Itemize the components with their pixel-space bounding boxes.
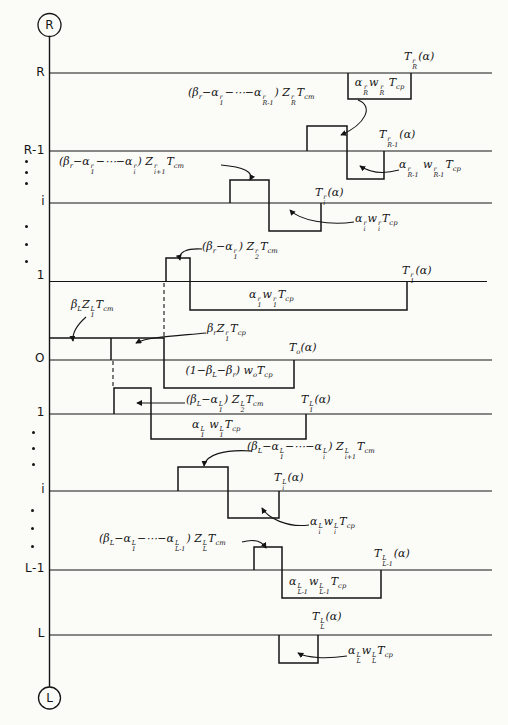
axis-row-label-i-right: i xyxy=(12,194,45,208)
label-comm-i-left: (βL−αL1−⋯−αLi) ZLi+1Tcm xyxy=(247,441,375,460)
arrow-wi-to-pulse xyxy=(290,210,354,223)
plateau-origin xyxy=(49,338,294,388)
label-compute-i-right: αriwriTcp xyxy=(355,213,398,232)
axis-row-label-L: L xyxy=(12,626,45,640)
timing-diagram-figure: R L R R-1 i 1 O 1 i L-1 L TrR(α) αrRwrR … xyxy=(0,0,508,725)
label-finish-time-origin: To(α) xyxy=(289,342,316,357)
arrow-zR-to-pulse xyxy=(341,100,366,135)
label-finish-time-i-right: Tri(α) xyxy=(315,187,343,206)
dashed-guides xyxy=(113,283,164,387)
diagram-canvas xyxy=(0,0,508,725)
arrow-wiL-to-pulse xyxy=(262,508,309,526)
pulse-row-i-right xyxy=(230,180,321,231)
arrow-wLL-to-pulse xyxy=(298,653,347,658)
label-compute-R-1: αrR-1 wrR-1Tcp xyxy=(399,159,461,178)
axis-row-label-R-1: R-1 xyxy=(12,143,45,157)
label-comm-beta-r: βrZr1Tcp xyxy=(207,323,246,342)
axis-row-label-1-left: 1 xyxy=(12,405,45,419)
label-compute-L-1: αLL-1wLL-1Tcp xyxy=(289,576,346,595)
arrow-zi1-to-pulse xyxy=(221,165,251,180)
axis-row-label-origin: O xyxy=(12,351,45,365)
pulse-compute-L xyxy=(279,635,318,663)
label-finish-time-R: TrR(α) xyxy=(404,51,434,70)
arrow-ziL-to-pulse xyxy=(204,451,252,466)
label-compute-origin: (1−βL−βr) woTcp xyxy=(164,365,294,380)
label-finish-time-1-right: Tr1(α) xyxy=(402,265,431,284)
label-finish-time-L-1: TLL-1(α) xyxy=(374,548,410,567)
label-compute-L: αLLwLLTcp xyxy=(348,645,393,664)
label-comm-R: (βr−αr1−⋯−αrR-1) ZrRTcm xyxy=(188,87,314,106)
label-comm-2-left: (βL−αL1) ZL2Tcm xyxy=(186,394,263,413)
axis-row-label-L-1: L-1 xyxy=(12,561,45,575)
label-finish-time-i-left: TLi(α) xyxy=(274,472,304,491)
terminal-top-label: R xyxy=(38,18,62,32)
label-compute-i-left: αLiwLiTcp xyxy=(310,516,355,535)
label-compute-1-left: αL1 wL1Tcp xyxy=(192,419,240,438)
arrow-wR1-to-pulse xyxy=(360,166,399,173)
label-compute-1-right: αr1wr1Tcp xyxy=(249,289,294,308)
label-comm-beta-L: βLZL1Tcm xyxy=(71,299,113,318)
label-finish-time-R-1: TrR-1(α) xyxy=(379,129,415,148)
label-finish-time-1-left: TL1(α) xyxy=(301,394,331,413)
label-finish-time-L: TLL(α) xyxy=(312,611,342,630)
label-comm-L: (βL−αL1−⋯−αLL-1) ZLLTcm xyxy=(99,533,226,552)
label-comm-2-right: (βr−αr1) Zr2Tcm xyxy=(202,241,278,260)
label-comm-i-right: (βr−αr1−⋯−αri) Zri+1Tcm xyxy=(59,156,184,175)
axis-row-label-R: R xyxy=(12,65,45,79)
axis-row-label-i-left: i xyxy=(12,482,45,496)
axis-row-label-1-right: 1 xyxy=(12,268,45,282)
label-compute-R: αrRwrR Tcp xyxy=(348,77,411,96)
terminal-bottom-label: L xyxy=(38,691,62,705)
